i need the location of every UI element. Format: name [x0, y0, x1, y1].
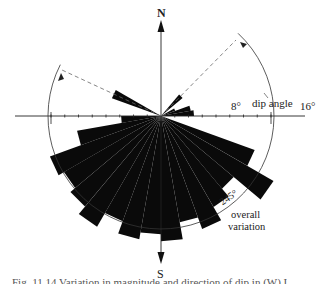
dip-angle-label: dip angle: [252, 98, 293, 109]
dashed-limit-nw: [62, 70, 161, 116]
rose-diagram: [0, 0, 332, 284]
south-arrow-icon: [158, 252, 165, 264]
rose-petal: [112, 90, 161, 116]
tick-label-16: 16°: [300, 101, 315, 112]
variation-label-line1: overall: [231, 210, 260, 221]
arc-arrowhead-ne-icon: [240, 42, 247, 48]
north-arrow-icon: [158, 20, 165, 32]
tick-label-8: 8°: [231, 101, 241, 112]
north-label: N: [157, 7, 166, 19]
variation-label-line2: variation: [228, 222, 265, 233]
figure-caption: Fig. 11.14 Variation in magnitude and di…: [12, 276, 287, 284]
dashed-limit-ne: [161, 40, 236, 116]
arc-arrowhead-nw-icon: [58, 73, 64, 81]
